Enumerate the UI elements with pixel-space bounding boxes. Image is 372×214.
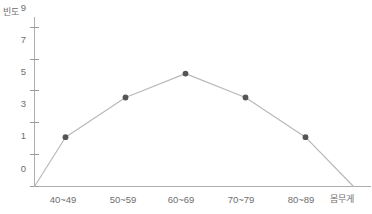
- frequency-polygon-chart: 빈도 몸무게 0 1 3 5 7 9 40~49 50~59 60~69 70~…: [0, 0, 372, 214]
- plot-area: [0, 0, 372, 214]
- data-point-60~69: [183, 71, 189, 77]
- data-point-80~89: [303, 134, 309, 140]
- data-point-70~79: [243, 95, 249, 101]
- frequency-polygon-line: [35, 74, 354, 187]
- data-point-markers: [63, 71, 309, 140]
- data-point-40~49: [63, 134, 69, 140]
- data-point-50~59: [123, 95, 129, 101]
